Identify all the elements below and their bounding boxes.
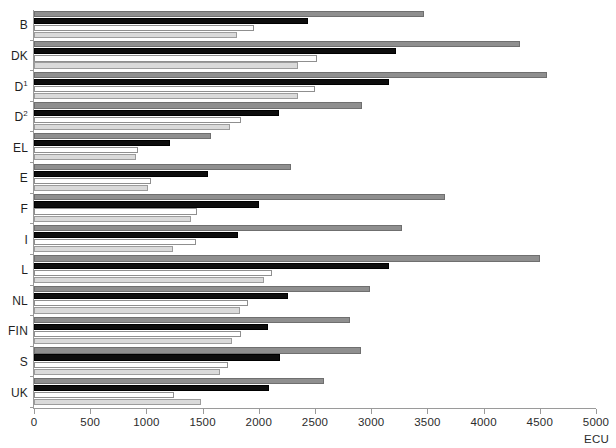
bar [34, 102, 362, 108]
bar [34, 246, 173, 252]
category-label: D2 [14, 110, 28, 124]
bar [34, 55, 317, 61]
bar-group: E [34, 163, 596, 194]
bar [34, 216, 191, 222]
bar [34, 185, 148, 191]
bar-group: D2 [34, 102, 596, 133]
bar [34, 41, 520, 47]
bar [34, 133, 211, 139]
y-axis-tick [30, 407, 34, 408]
bar [34, 11, 424, 17]
x-axis-tick [34, 409, 35, 414]
x-axis-tick-label: 2000 [246, 416, 272, 428]
category-label-superscript: 2 [23, 109, 28, 118]
plot-area: BDKD1D2ELEFILNLFINSUK [34, 10, 596, 408]
category-label: NL [12, 294, 28, 308]
bar-group: DK [34, 41, 596, 72]
category-label: F [20, 202, 28, 216]
bar [34, 171, 208, 177]
category-label: UK [11, 386, 28, 400]
category-label: I [24, 233, 28, 247]
bar [34, 354, 280, 360]
x-axis-tick-label: 2500 [302, 416, 328, 428]
bar [34, 307, 240, 313]
x-axis-tick [315, 409, 316, 414]
bar [34, 201, 259, 207]
bar-group: UK [34, 377, 596, 408]
x-axis-tick-label: 3500 [414, 416, 440, 428]
bar [34, 25, 254, 31]
x-axis-tick [371, 409, 372, 414]
x-axis-tick [259, 409, 260, 414]
bar [34, 18, 308, 24]
bar [34, 347, 361, 353]
category-label: S [20, 355, 28, 369]
x-axis-tick [146, 409, 147, 414]
x-axis-tick-label: 4000 [470, 416, 496, 428]
bar [34, 331, 241, 337]
x-axis-tick [203, 409, 204, 414]
bar [34, 110, 279, 116]
x-axis-tick-label: 0 [31, 416, 38, 428]
bar [34, 385, 269, 391]
x-axis-tick [596, 409, 597, 414]
bar-group: FIN [34, 316, 596, 347]
bar [34, 147, 138, 153]
bar [34, 255, 540, 261]
x-axis-tick-label: 500 [80, 416, 100, 428]
bar [34, 362, 228, 368]
axis-unit-label: ECU [584, 433, 609, 445]
bar-group: B [34, 10, 596, 41]
bar [34, 79, 389, 85]
bar [34, 62, 298, 68]
x-axis-tick [540, 409, 541, 414]
bar [34, 48, 396, 54]
bar-group: I [34, 224, 596, 255]
bar-group: L [34, 255, 596, 286]
x-axis-tick [90, 409, 91, 414]
bar-group: F [34, 194, 596, 225]
bar [34, 124, 230, 130]
x-axis-tick [484, 409, 485, 414]
category-label: B [20, 18, 28, 32]
x-axis-tick [427, 409, 428, 414]
bar-group: EL [34, 132, 596, 163]
bar [34, 154, 136, 160]
x-axis-tick-label: 3000 [358, 416, 384, 428]
bar [34, 225, 402, 231]
bar [34, 140, 170, 146]
bar [34, 324, 268, 330]
bar [34, 93, 298, 99]
bar [34, 392, 174, 398]
bar [34, 300, 248, 306]
x-axis-tick-label: 1000 [133, 416, 159, 428]
bar [34, 378, 324, 384]
x-axis: ECU 050010001500200025003000350040004500… [0, 409, 616, 448]
bar [34, 232, 238, 238]
x-axis-tick-label: 4500 [527, 416, 553, 428]
category-label: FIN [8, 324, 28, 338]
x-axis-tick-label: 5000 [583, 416, 609, 428]
bar [34, 338, 232, 344]
bar [34, 270, 272, 276]
bar-chart: BDKD1D2ELEFILNLFINSUK ECU 05001000150020… [0, 0, 616, 448]
bar [34, 263, 389, 269]
bar [34, 86, 315, 92]
bar [34, 286, 370, 292]
category-label-superscript: 1 [23, 79, 28, 88]
category-label: D1 [14, 80, 28, 94]
bar [34, 164, 291, 170]
bar-group: S [34, 347, 596, 378]
bar-group: NL [34, 286, 596, 317]
bar [34, 194, 445, 200]
category-label: DK [11, 49, 28, 63]
category-label: EL [13, 141, 28, 155]
category-label: E [20, 171, 28, 185]
bar [34, 117, 241, 123]
bar [34, 178, 151, 184]
bar [34, 399, 201, 405]
bar [34, 239, 196, 245]
bar [34, 208, 197, 214]
bar [34, 72, 547, 78]
bar-group: D1 [34, 71, 596, 102]
